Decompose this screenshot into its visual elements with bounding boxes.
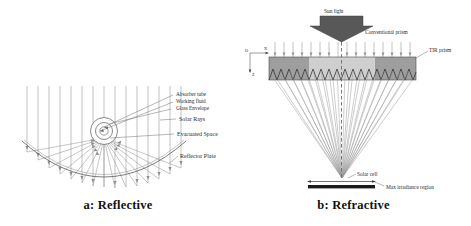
label-tir-prism: TIR prism [429,47,452,53]
label-glass-envelope: Glass Envelope [176,105,210,111]
refractive-diagram: Sun light O X Z [236,0,471,226]
label-sun-light: Sun light [324,8,344,14]
label-evacuated-space: Evacuated Space [177,131,218,137]
caption-refractive: b: Refractive [236,198,471,213]
label-solar-rays: Solar Rays [179,116,206,122]
coordinate-axes [250,53,268,72]
solar-cell-bar [308,185,375,188]
reflective-diagram: Absorber tube Working fluid Glass Envelo… [0,0,236,226]
label-reflector-plate: Reflector Plate [180,153,216,159]
axis-label-origin: O [245,48,248,53]
incident-ray-arrowheads-group [274,52,412,56]
sun-light-arrow [310,16,373,42]
x-axis-arrowhead [266,52,270,55]
caption-reflective: a: Reflective [0,198,236,213]
label-absorber-tube: Absorber tube [176,91,207,97]
reflected-rays-group [27,138,181,188]
panel-refractive: Sun light O X Z [236,0,471,226]
label-conventional-prism: Conventional prism [365,29,408,35]
label-working-fluid: Working fluid [176,98,206,104]
label-max-irradiance-region: Max irradiance region [386,184,434,190]
figure-container: Absorber tube Working fluid Glass Envelo… [0,0,471,226]
panel-reflective: Absorber tube Working fluid Glass Envelo… [0,0,236,226]
irradiance-arrow-left [307,180,311,183]
label-solar-cell: Solar cell [357,171,378,177]
z-axis-arrowhead [249,70,252,74]
axis-label-x: X [264,46,267,51]
refracted-rays-group [272,71,413,178]
axis-label-z: Z [252,72,255,77]
incident-rays-group [275,42,410,57]
